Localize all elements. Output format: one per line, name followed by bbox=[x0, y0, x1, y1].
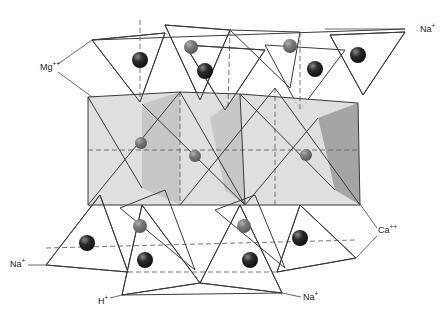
ion-label-mg: Mg++ bbox=[40, 60, 60, 72]
edge bbox=[300, 205, 356, 258]
tetrahedron bbox=[230, 30, 300, 88]
edge bbox=[240, 205, 282, 293]
ion-label-na-left: Na+ bbox=[10, 257, 26, 269]
atom-sphere-front bbox=[307, 61, 323, 77]
atom-sphere-back bbox=[133, 219, 147, 233]
ion-label-na-top: Na+ bbox=[420, 22, 436, 34]
atom-sphere-front bbox=[197, 63, 213, 79]
octahedron bbox=[240, 94, 360, 205]
tetrahedron bbox=[46, 195, 128, 272]
edge bbox=[330, 32, 405, 35]
atom-sphere-back bbox=[237, 219, 251, 233]
atom-sphere-back bbox=[184, 40, 198, 54]
atom-sphere-back bbox=[189, 150, 201, 162]
atom-sphere-back bbox=[135, 137, 147, 149]
atom-sphere-front bbox=[132, 52, 148, 68]
edge bbox=[122, 293, 282, 295]
edge bbox=[46, 265, 128, 272]
ion-symbol: Na bbox=[303, 292, 315, 302]
edge bbox=[165, 25, 230, 30]
atom-sphere-front bbox=[242, 252, 258, 268]
edge bbox=[363, 32, 405, 95]
ion-charge: + bbox=[105, 294, 109, 301]
ion-charge: ++ bbox=[390, 223, 398, 230]
ion-symbol: Na bbox=[420, 24, 432, 34]
ion-charge: ++ bbox=[53, 60, 61, 67]
ion-label-ca: Ca++ bbox=[378, 223, 397, 235]
ion-symbol: Na bbox=[10, 259, 22, 269]
atom-sphere-front bbox=[350, 47, 366, 63]
ion-symbol: Mg bbox=[40, 62, 53, 72]
ion-label-na-bottom: Na+ bbox=[303, 290, 319, 302]
tetrahedron bbox=[330, 32, 405, 95]
edge bbox=[200, 283, 282, 293]
ion-charge: + bbox=[315, 290, 319, 297]
tetrahedron bbox=[122, 205, 200, 295]
tetrahedron bbox=[200, 205, 282, 293]
ion-charge: + bbox=[22, 257, 26, 264]
crystal-structure-diagram: Crystal structure of an amphibole (tetra… bbox=[0, 0, 448, 317]
leader-line-mg-down bbox=[58, 72, 92, 97]
edge bbox=[92, 40, 140, 102]
leader-line-ca-up bbox=[360, 204, 377, 228]
atom-sphere-front bbox=[292, 230, 308, 246]
edge bbox=[277, 258, 356, 272]
ion-charge: + bbox=[432, 22, 436, 29]
leader-line-h bbox=[110, 295, 122, 298]
edge bbox=[140, 33, 165, 102]
atom-sphere-back bbox=[300, 149, 312, 161]
atom-sphere-front bbox=[137, 252, 153, 268]
leader-line-na-bottom bbox=[282, 293, 301, 297]
leader-line-ca-down bbox=[356, 236, 377, 258]
edge bbox=[330, 35, 363, 95]
atom-sphere-back bbox=[283, 39, 297, 53]
ion-symbol: Ca bbox=[378, 225, 390, 235]
leader-line-mg-up bbox=[58, 40, 92, 64]
tetrahedron bbox=[92, 33, 165, 102]
edge bbox=[122, 283, 200, 295]
atom-sphere-front bbox=[79, 235, 95, 251]
edge bbox=[46, 195, 100, 265]
ion-label-h: H+ bbox=[98, 294, 109, 306]
